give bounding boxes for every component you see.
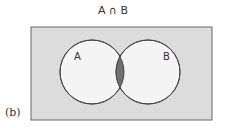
set-a-label: A	[74, 51, 81, 62]
set-b-label: B	[163, 51, 170, 62]
panel-label: (b)	[5, 106, 21, 119]
venn-diagram: A B	[0, 0, 226, 128]
